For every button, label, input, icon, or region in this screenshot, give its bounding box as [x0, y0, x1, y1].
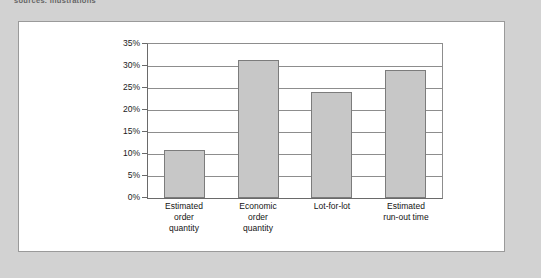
y-axis-tick-label: 0% [128, 192, 140, 202]
x-axis-label-line: Estimated [370, 201, 442, 212]
y-axis-tick-mark [142, 131, 147, 132]
gridline [148, 66, 442, 67]
y-axis-tick-label: 25% [123, 82, 140, 92]
x-axis-label-line: Economic [222, 201, 294, 212]
bar[interactable] [311, 92, 352, 198]
chart-card: 0%5%10%15%20%25%30%35% Estimatedorderqua… [18, 21, 505, 252]
x-axis-category-label: Economicorderquantity [221, 201, 295, 234]
y-axis-tick-label: 15% [123, 126, 140, 136]
y-axis-tick-mark [142, 87, 147, 88]
x-axis-label-line: Lot-for-lot [296, 201, 368, 212]
x-axis-label-line: Estimated [148, 201, 220, 212]
x-axis-category-label: Estimatedrun-out time [369, 201, 443, 234]
bar[interactable] [164, 150, 205, 198]
y-axis-tick-label: 5% [128, 170, 140, 180]
y-axis-tick-mark [142, 153, 147, 154]
bar-slot [148, 44, 222, 198]
y-axis-tick-mark [142, 43, 147, 44]
y-axis-tick-mark [142, 175, 147, 176]
bar-slot [369, 44, 443, 198]
y-axis-tick-label: 20% [123, 104, 140, 114]
x-axis-category-label: Estimatedorderquantity [147, 201, 221, 234]
x-axis-label-line: order [222, 212, 294, 223]
y-axis-tick-mark [142, 65, 147, 66]
y-axis-tick-label: 10% [123, 148, 140, 158]
bar-slot [295, 44, 369, 198]
x-axis-labels: EstimatedorderquantityEconomicorderquant… [147, 201, 443, 234]
y-axis-tick-mark [142, 197, 147, 198]
x-axis-label-line: quantity [148, 223, 220, 234]
x-axis-category-label: Lot-for-lot [295, 201, 369, 234]
bar[interactable] [385, 70, 426, 198]
y-axis-tick-mark [142, 109, 147, 110]
bar[interactable] [238, 60, 279, 198]
bar-slot [222, 44, 296, 198]
y-axis-tick-label: 30% [123, 60, 140, 70]
x-axis-label-line: run-out time [370, 212, 442, 223]
plot-area [147, 43, 443, 199]
y-axis-tick-label: 35% [123, 38, 140, 48]
y-axis-labels: 0%5%10%15%20%25%30%35% [107, 37, 140, 197]
bar-chart: 0%5%10%15%20%25%30%35% Estimatedorderqua… [19, 22, 506, 253]
bar-series [148, 44, 442, 198]
x-axis-label-line: quantity [222, 223, 294, 234]
x-axis-label-line: order [148, 212, 220, 223]
top-caption-fragment: sources, illustrations [14, 0, 96, 3]
